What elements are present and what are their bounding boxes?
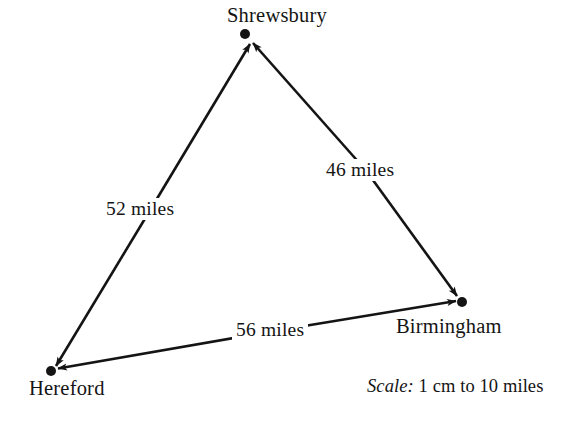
node-dot-birmingham [457, 297, 467, 307]
edge-label-birmingham-hereford: 56 miles [232, 319, 308, 341]
edge-label-shrewsbury-birmingham: 46 miles [322, 159, 398, 181]
node-dot-hereford [46, 366, 56, 376]
diagram-canvas: Shrewsbury Hereford Birmingham 52 miles … [0, 0, 575, 421]
node-label-shrewsbury: Shrewsbury [227, 5, 327, 26]
edge-segment-toward-birmingham [366, 171, 457, 297]
node-dot-shrewsbury [240, 29, 250, 39]
scale-note: Scale: 1 cm to 10 miles [367, 377, 543, 396]
edge-segment-toward-shrewsbury-2 [253, 43, 366, 171]
scale-keyword: Scale: [367, 376, 414, 396]
edge-segment-toward-shrewsbury [151, 44, 251, 210]
edge-segment-toward-hereford [56, 210, 151, 367]
triangle-diagram-svg [0, 0, 575, 421]
node-label-hereford: Hereford [29, 378, 105, 399]
edge-label-shrewsbury-hereford: 52 miles [102, 198, 178, 220]
scale-value: 1 cm to 10 miles [419, 376, 544, 396]
node-label-birmingham: Birmingham [396, 316, 502, 337]
